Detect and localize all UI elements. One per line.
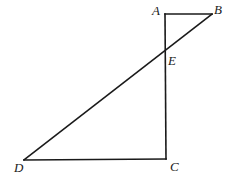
segment-ac (165, 14, 166, 159)
segment-bd (24, 14, 212, 160)
segment-dc (24, 159, 166, 160)
point-label-d: D (13, 160, 24, 175)
point-label-c: C (170, 159, 179, 174)
geometry-diagram: A B E D C (0, 0, 229, 178)
point-label-a: A (151, 3, 160, 18)
point-label-e: E (167, 53, 176, 68)
point-label-b: B (214, 2, 222, 17)
